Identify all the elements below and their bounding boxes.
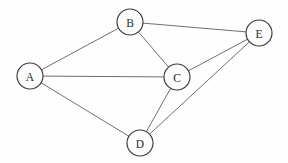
graph-node-label-d: D	[136, 138, 144, 150]
graph-node-label-c: C	[173, 72, 181, 84]
edge-layer	[41, 23, 249, 136]
graph-edge-a-b	[41, 28, 118, 70]
graph-node-a[interactable]: A	[17, 63, 43, 89]
graph-node-e[interactable]: E	[246, 20, 272, 46]
graph-edge-c-d	[146, 88, 170, 131]
graph-canvas: ABCDE	[0, 0, 288, 163]
graph-node-d[interactable]: D	[127, 130, 153, 156]
graph-edge-c-e	[188, 39, 247, 71]
graph-node-b[interactable]: B	[117, 9, 143, 35]
graph-edge-a-c	[43, 76, 164, 77]
graph-edge-b-c	[138, 32, 168, 67]
graph-edge-b-e	[143, 23, 246, 32]
graph-diagram: ABCDE	[0, 0, 288, 163]
graph-node-label-a: A	[26, 71, 35, 83]
graph-node-label-e: E	[255, 28, 262, 40]
graph-node-label-b: B	[126, 17, 134, 29]
graph-node-c[interactable]: C	[164, 64, 190, 90]
graph-edge-a-d	[41, 83, 129, 136]
graph-edge-d-e	[150, 42, 250, 134]
